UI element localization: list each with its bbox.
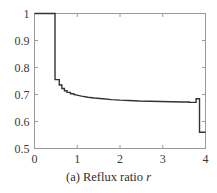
x-tick-label: 1 xyxy=(74,152,80,166)
x-axis-tick-labels: 01234 xyxy=(32,152,209,166)
y-tick-label: 0.5 xyxy=(15,142,30,156)
caption-prefix: (a) Reflux ratio xyxy=(66,170,143,184)
data-series-line xyxy=(35,14,206,133)
axes-frame xyxy=(35,14,206,149)
y-tick-label: 0.6 xyxy=(15,115,30,129)
y-tick-label: 0.8 xyxy=(15,61,30,75)
axis-tick-marks xyxy=(35,14,206,149)
y-tick-label: 0.7 xyxy=(15,88,30,102)
x-tick-label: 2 xyxy=(117,152,123,166)
y-tick-label: 1 xyxy=(24,7,30,21)
x-tick-label: 4 xyxy=(203,152,209,166)
y-tick-label: 0.9 xyxy=(15,34,30,48)
y-axis-tick-labels: 0.50.60.70.80.91 xyxy=(15,7,30,156)
x-tick-label: 0 xyxy=(32,152,38,166)
line-chart: 0.50.60.70.80.91 01234 xyxy=(0,0,217,193)
figure-caption: (a) Reflux ratio r xyxy=(0,170,217,185)
caption-variable: r xyxy=(146,170,151,184)
x-tick-label: 3 xyxy=(160,152,166,166)
figure-panel: 0.50.60.70.80.91 01234 (a) Reflux ratio … xyxy=(0,0,217,193)
